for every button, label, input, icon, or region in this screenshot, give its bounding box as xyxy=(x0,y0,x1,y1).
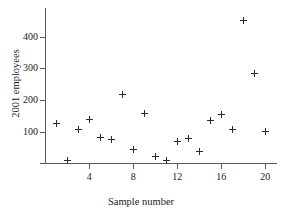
x-axis-tick xyxy=(221,164,222,169)
x-axis-tick xyxy=(133,164,134,169)
data-point-marker xyxy=(130,146,137,153)
data-point-marker xyxy=(152,153,159,160)
data-point-marker xyxy=(251,70,258,77)
data-point-marker xyxy=(174,138,181,145)
x-axis-tick xyxy=(89,164,90,169)
x-axis-tick-label: 20 xyxy=(253,171,277,182)
data-point-marker xyxy=(75,126,82,133)
data-point-marker xyxy=(64,157,71,164)
x-axis-tick-label: 16 xyxy=(209,171,233,182)
data-point-marker xyxy=(119,91,126,98)
x-axis-line xyxy=(45,163,277,164)
data-point-marker xyxy=(53,120,60,127)
data-point-marker xyxy=(108,136,115,143)
data-point-marker xyxy=(86,116,93,123)
x-axis-tick-label: 4 xyxy=(77,171,101,182)
x-axis-tick xyxy=(265,164,266,169)
data-point-marker xyxy=(163,157,170,164)
data-point-marker xyxy=(218,111,225,118)
x-axis-tick-label: 12 xyxy=(165,171,189,182)
x-axis-tick xyxy=(177,164,178,169)
x-axis-tick-label: 8 xyxy=(121,171,145,182)
data-point-marker xyxy=(229,126,236,133)
data-point-marker xyxy=(240,17,247,24)
scatter-plot-figure: 100200300400 48121620 Sample number 2001… xyxy=(0,0,282,216)
x-axis-title: Sample number xyxy=(0,196,282,207)
plot-data-area xyxy=(45,8,275,163)
data-point-marker xyxy=(207,117,214,124)
data-point-marker xyxy=(185,135,192,142)
data-point-marker xyxy=(262,128,269,135)
y-axis-title: 2001 employees xyxy=(10,24,21,144)
y-axis-tick xyxy=(40,163,45,164)
data-point-marker xyxy=(141,110,148,117)
data-point-marker xyxy=(97,134,104,141)
data-point-marker xyxy=(196,148,203,155)
